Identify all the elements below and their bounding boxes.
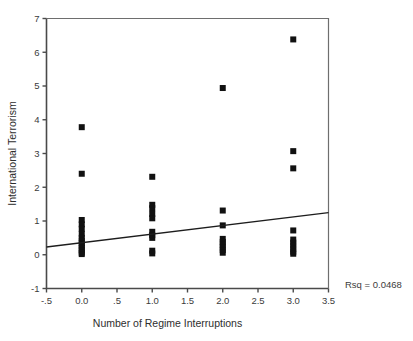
data-point xyxy=(149,215,155,221)
frame-border xyxy=(47,19,329,289)
data-point xyxy=(220,208,226,214)
fit-line xyxy=(47,213,329,247)
x-tick-label: 3.0 xyxy=(287,295,300,306)
x-tick-label: 3.5 xyxy=(322,295,335,306)
x-tick-label: 1.5 xyxy=(181,295,194,306)
axis-lines xyxy=(47,19,329,289)
y-tick-label: 5 xyxy=(34,80,39,91)
data-point xyxy=(290,165,296,171)
data-point xyxy=(149,235,155,241)
x-tick-label: 1.0 xyxy=(146,295,159,306)
x-tick-label: .5 xyxy=(113,295,121,306)
data-point xyxy=(149,205,155,211)
x-tick-label: -.5 xyxy=(41,295,52,306)
data-point xyxy=(149,250,155,256)
data-point-markers xyxy=(79,36,297,257)
y-axis-tick-labels: -101234567 xyxy=(31,13,39,294)
data-point xyxy=(220,250,226,256)
data-point xyxy=(290,251,296,257)
y-tick-label: 7 xyxy=(34,13,39,24)
data-point xyxy=(290,227,296,233)
x-tick-label: 2.0 xyxy=(216,295,229,306)
data-point xyxy=(290,148,296,154)
data-point xyxy=(79,171,85,177)
x-tick-label: 2.5 xyxy=(251,295,264,306)
data-point xyxy=(79,124,85,130)
y-tick-label: 0 xyxy=(34,249,39,260)
data-point xyxy=(149,174,155,180)
data-point xyxy=(220,85,226,91)
y-tick-label: 1 xyxy=(34,215,39,226)
y-tick-label: 4 xyxy=(34,114,39,125)
x-axis-title: Number of Regime Interruptions xyxy=(93,317,242,329)
y-tick-label: -1 xyxy=(31,283,39,294)
x-tick-label: 0.0 xyxy=(75,295,88,306)
rsq-annotation: Rsq = 0.0468 xyxy=(345,279,402,290)
scatter-plot-figure: -.50.0.51.01.52.02.53.03.5 -101234567 Nu… xyxy=(0,0,413,341)
plot-canvas: -.50.0.51.01.52.02.53.03.5 -101234567 Nu… xyxy=(0,0,413,341)
plot-frame xyxy=(47,19,329,289)
regression-fit-line xyxy=(47,213,329,247)
y-tick-label: 3 xyxy=(34,148,39,159)
data-point xyxy=(290,36,296,42)
y-tick-label: 2 xyxy=(34,182,39,193)
x-axis-tick-labels: -.50.0.51.01.52.02.53.03.5 xyxy=(41,295,335,306)
y-tick-label: 6 xyxy=(34,47,39,58)
data-point xyxy=(79,251,85,257)
y-axis-title: International Terrorism xyxy=(6,101,18,206)
